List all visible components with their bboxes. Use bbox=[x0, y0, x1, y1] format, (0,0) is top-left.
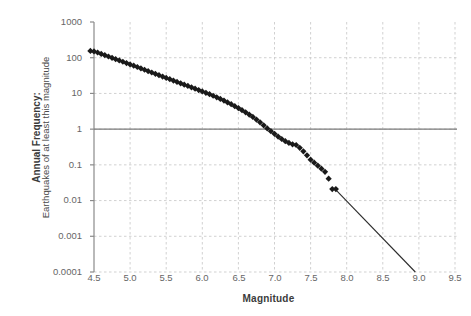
earthquake-frequency-chart: Annual Frequency: Earthquakes of at leas… bbox=[0, 0, 471, 316]
data-point-marker bbox=[304, 152, 310, 158]
extrapolation-line-group bbox=[336, 190, 415, 272]
data-markers-group bbox=[87, 48, 339, 192]
data-point-marker bbox=[326, 176, 332, 182]
extrapolation-line bbox=[336, 190, 415, 272]
plot-area bbox=[0, 0, 471, 316]
data-point-marker bbox=[333, 186, 339, 192]
gridlines bbox=[94, 22, 457, 272]
